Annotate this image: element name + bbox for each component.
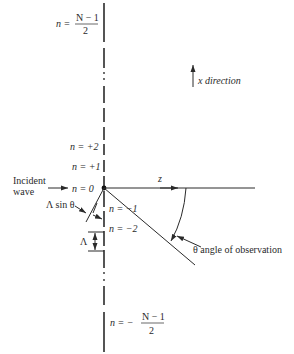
label-lambda: Λ xyxy=(80,236,88,247)
label-bottom-frac-num: N − 1 xyxy=(142,311,165,322)
label-z: z xyxy=(157,173,162,184)
path-difference-arrow-icon xyxy=(93,215,102,219)
label-n-plus2: n = +2 xyxy=(70,141,99,152)
label-top-frac-num: N − 1 xyxy=(76,12,99,23)
diagram-svg: n = N − 1 2 x direction n = +2 n = +1 In… xyxy=(0,0,294,354)
spacing-dimension xyxy=(88,232,104,251)
label-n-minus2: n = −2 xyxy=(109,223,138,234)
lambda-sin-theta-leader-arrow-icon xyxy=(75,206,86,213)
label-bottom-n: n = − xyxy=(110,317,134,328)
label-n-zero: n = 0 xyxy=(72,183,94,194)
theta-arc xyxy=(171,188,186,241)
label-top-n: n = xyxy=(56,18,70,29)
label-n-plus1: n = +1 xyxy=(72,161,101,172)
label-lambda-sin-theta: Λ sin θ xyxy=(46,199,75,210)
label-x-direction: x direction xyxy=(197,75,241,86)
label-top-frac-den: 2 xyxy=(83,25,88,36)
label-theta-angle: θ angle of observation xyxy=(193,244,282,255)
label-n-minus1: n = −1 xyxy=(109,203,138,214)
label-incident-line2: wave xyxy=(13,186,35,197)
label-bottom-frac-den: 2 xyxy=(149,325,154,336)
label-incident-line1: Incident xyxy=(13,175,46,186)
diagram-canvas: n = N − 1 2 x direction n = +2 n = +1 In… xyxy=(0,0,294,354)
